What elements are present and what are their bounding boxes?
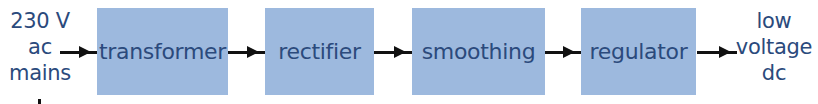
input-label: 230 V ac mains	[0, 8, 80, 86]
arrow-input-to-transformer	[60, 51, 97, 54]
arrow-rectifier-to-smoothing	[374, 51, 412, 54]
arrow-transformer-to-rectifier	[228, 51, 265, 54]
output-label: low voltage dc	[730, 8, 818, 86]
stage-rectifier-label: rectifier	[278, 39, 361, 64]
stage-transformer: transformer	[97, 8, 228, 95]
input-tick-mark	[38, 99, 41, 104]
stage-regulator-label: regulator	[589, 39, 687, 64]
output-line-level: low	[730, 8, 818, 34]
stage-transformer-label: transformer	[99, 39, 226, 64]
arrow-smoothing-to-regulator	[545, 51, 581, 54]
output-line-voltage: voltage	[730, 34, 818, 60]
input-line-type: ac	[0, 34, 80, 60]
stage-regulator: regulator	[581, 8, 696, 95]
output-line-type: dc	[730, 60, 818, 86]
stage-smoothing: smoothing	[412, 8, 545, 95]
input-line-source: mains	[0, 60, 80, 86]
input-line-voltage: 230 V	[0, 8, 80, 34]
stage-rectifier: rectifier	[265, 8, 374, 95]
stage-smoothing-label: smoothing	[422, 39, 536, 64]
